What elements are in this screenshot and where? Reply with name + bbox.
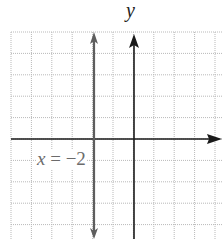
- equation-value: −2: [66, 148, 86, 169]
- grid-lines: [11, 32, 222, 239]
- axes: [11, 34, 222, 239]
- line-x-equals-neg2: [90, 32, 98, 239]
- coordinate-plane: [0, 0, 222, 239]
- equation-label: x = −2: [36, 149, 87, 169]
- y-axis-label: y: [126, 0, 135, 22]
- equation-equals: =: [45, 148, 65, 169]
